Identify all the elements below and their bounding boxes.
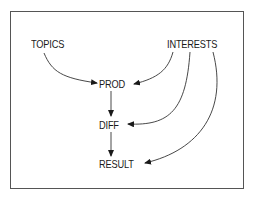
node-diff: DIFF — [99, 119, 119, 131]
node-prod: PROD — [99, 78, 125, 90]
edge-interests-diff — [128, 52, 190, 124]
edge-interests-result — [145, 52, 217, 163]
node-topics: TOPICS — [31, 38, 64, 50]
node-interests: INTERESTS — [167, 38, 217, 50]
node-result: RESULT — [99, 158, 134, 170]
edge-topics-prod — [44, 53, 97, 83]
edge-interests-prod — [134, 52, 173, 84]
edges — [0, 0, 255, 200]
